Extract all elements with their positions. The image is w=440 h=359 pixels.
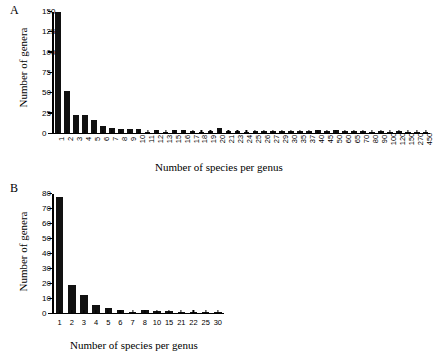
- x-tick-label: 6: [118, 319, 122, 327]
- panel-b-y-axis-title: Number of genera: [18, 207, 29, 297]
- bar-column: [206, 12, 215, 133]
- x-tick-label-cell: 37: [305, 134, 314, 135]
- panel-b: B 01020304050607080 12345678101521222530…: [0, 180, 440, 359]
- bar-column: [62, 12, 71, 133]
- x-tick-label-cell: 22: [187, 314, 199, 315]
- x-tick-label: 35: [300, 135, 308, 143]
- bar-column: [71, 12, 80, 133]
- y-tick-label: 100: [42, 49, 44, 57]
- x-tick-label-cell: 27: [269, 134, 278, 135]
- x-tick-label-cell: 5: [102, 314, 114, 315]
- bar-column: [224, 12, 233, 133]
- bar-column: [152, 12, 161, 133]
- x-tick-label-cell: 3: [71, 134, 80, 135]
- x-tick-label-cell: 25: [251, 134, 260, 135]
- x-tick-label-cell: 70: [358, 134, 367, 135]
- x-tick-label: 80: [372, 135, 380, 143]
- bar-column: [323, 12, 332, 133]
- bar-column: [412, 12, 421, 133]
- x-tick-label: 2: [67, 137, 75, 141]
- x-tick-label-cell: 29: [278, 134, 287, 135]
- x-tick-label-cell: 21: [224, 134, 233, 135]
- x-tick-label-cell: 1: [54, 314, 66, 315]
- x-tick-label-cell: 4: [80, 134, 89, 135]
- x-tick-label-cell: 8: [116, 134, 125, 135]
- y-tick-label: 40: [42, 250, 44, 258]
- y-tick: [48, 313, 52, 315]
- panel-a-y-axis-title: Number of genera: [18, 23, 29, 113]
- panel-b-plot-area: 01020304050607080 12345678101521222530: [52, 194, 224, 314]
- x-tick-label-cell: 6: [98, 134, 107, 135]
- bar-column: [332, 12, 341, 133]
- x-tick-label: 7: [112, 137, 120, 141]
- x-tick-label-cell: 21: [175, 314, 187, 315]
- x-tick-label: 19: [210, 135, 218, 143]
- x-tick-label-cell: 16: [179, 134, 188, 135]
- x-tick-label: 1: [58, 137, 66, 141]
- bar: [55, 12, 61, 133]
- bar-column: [139, 194, 151, 313]
- x-tick-label-cell: 7: [107, 134, 116, 135]
- bar-column: [403, 12, 412, 133]
- x-tick-label: 11: [148, 135, 156, 143]
- x-tick-label: 1: [57, 319, 61, 327]
- x-tick-label: 30: [214, 319, 222, 327]
- x-tick-label: 21: [228, 135, 236, 143]
- x-tick-label: 15: [165, 319, 173, 327]
- bar-column: [143, 12, 152, 133]
- y-tick-label: 0: [42, 310, 44, 318]
- bar-column: [125, 12, 134, 133]
- x-tick-label-cell: 8: [139, 314, 151, 315]
- x-tick-label: 70: [363, 135, 371, 143]
- x-tick-label-cell: 1: [54, 134, 63, 135]
- y-tick: [48, 133, 52, 135]
- bar-column: [200, 194, 212, 313]
- panel-b-x-tick-labels: 12345678101521222530: [54, 314, 225, 315]
- bar-column: [54, 12, 63, 133]
- bar-column: [107, 12, 116, 133]
- bar-column: [179, 12, 188, 133]
- x-tick-label-cell: 150: [403, 134, 412, 135]
- x-tick-label: 20: [219, 135, 227, 143]
- x-tick-label-cell: 19: [206, 134, 215, 135]
- x-tick-label: 4: [85, 137, 93, 141]
- x-tick-label-cell: 7: [127, 314, 139, 315]
- x-tick-label-cell: 450: [421, 134, 430, 135]
- x-tick-label: 29: [282, 135, 290, 143]
- x-tick-label-cell: 25: [200, 314, 212, 315]
- y-tick-label: 25: [42, 110, 44, 118]
- x-tick-label-cell: 23: [233, 134, 242, 135]
- x-tick-label-cell: 80: [367, 134, 376, 135]
- x-tick-label: 6: [103, 137, 111, 141]
- x-tick-label-cell: 40: [314, 134, 323, 135]
- panel-b-label: B: [10, 182, 18, 194]
- x-tick-label: 16: [184, 135, 192, 143]
- bar-column: [251, 12, 260, 133]
- x-tick-label-cell: 26: [260, 134, 269, 135]
- bar-column: [278, 12, 287, 133]
- bar-column: [78, 194, 90, 313]
- bar-column: [341, 12, 350, 133]
- x-tick-label: 23: [237, 135, 245, 143]
- x-tick-label: 45: [327, 135, 335, 143]
- x-tick-label-cell: 65: [349, 134, 358, 135]
- x-tick-label: 8: [143, 319, 147, 327]
- y-tick-label: 50: [42, 89, 44, 97]
- x-tick-label-cell: 6: [114, 314, 126, 315]
- bar-column: [260, 12, 269, 133]
- x-tick-label: 50: [336, 135, 344, 143]
- panel-a-x-axis-title: Number of species per genus: [155, 162, 283, 173]
- x-tick-label-cell: 270: [412, 134, 421, 135]
- bar-column: [376, 12, 385, 133]
- x-tick-label-cell: 20: [215, 134, 224, 135]
- panel-b-bars: [54, 194, 225, 313]
- bar-column: [89, 12, 98, 133]
- bar-column: [305, 12, 314, 133]
- x-tick-label: 17: [193, 135, 201, 143]
- x-tick-label: 37: [309, 135, 317, 143]
- bar-column: [114, 194, 126, 313]
- x-tick-label: 90: [381, 135, 389, 143]
- x-tick-label-cell: 15: [163, 314, 175, 315]
- bar-column: [98, 12, 107, 133]
- x-tick-label-cell: 50: [332, 134, 341, 135]
